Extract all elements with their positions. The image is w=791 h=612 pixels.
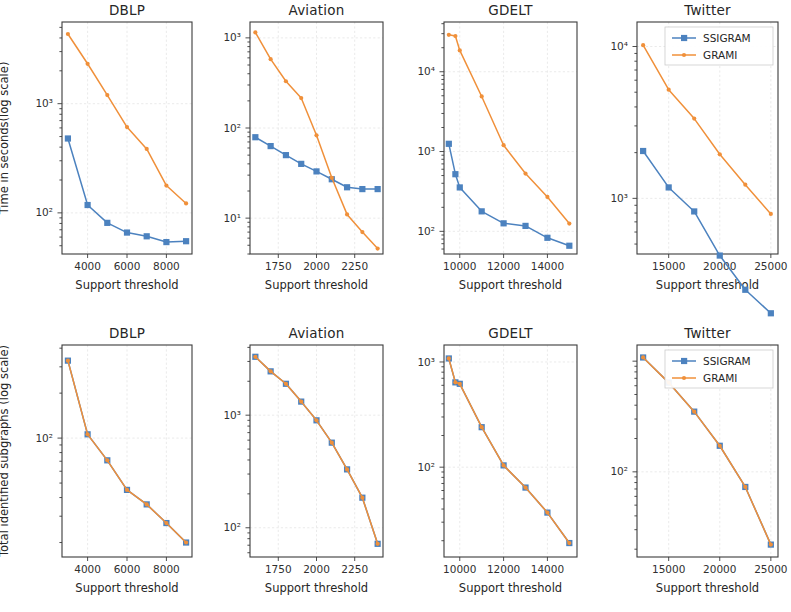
- plot-area: 10²150002000025000SSIGRAMGRAMI: [595, 345, 791, 583]
- legend-label-grami: GRAMI: [703, 372, 737, 384]
- subplot-bottom-twitter: TwitterSupport threshold10²1500020000250…: [0, 0, 791, 612]
- figure-canvas: DBLPTime in seconds(log scale)Support th…: [0, 0, 791, 612]
- x-tick-label: 15000: [652, 563, 685, 575]
- x-tick-label: 25000: [754, 563, 787, 575]
- legend: SSIGRAMGRAMI: [665, 350, 773, 388]
- x-axis-label: Support threshold: [637, 581, 778, 595]
- y-minor-ticks: [633, 361, 638, 549]
- y-tick-label: 10²: [610, 465, 628, 477]
- x-tick-label: 20000: [703, 563, 736, 575]
- subplot-title: Twitter: [637, 325, 778, 341]
- legend-label-ssigram: SSIGRAM: [703, 355, 751, 367]
